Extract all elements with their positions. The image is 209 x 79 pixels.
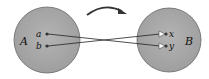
element-b-label: b <box>36 41 42 51</box>
element-x-label: x <box>169 29 174 39</box>
curved-arrow-right-icon <box>87 7 127 15</box>
set-b: B x y <box>137 8 201 72</box>
element-y-label: y <box>168 41 175 51</box>
element-a-label: a <box>36 29 41 39</box>
mapping-diagram: A a b B x y <box>0 0 209 79</box>
set-a-label: A <box>19 35 28 48</box>
set-a: A a b <box>14 7 80 73</box>
set-b-label: B <box>184 35 193 48</box>
